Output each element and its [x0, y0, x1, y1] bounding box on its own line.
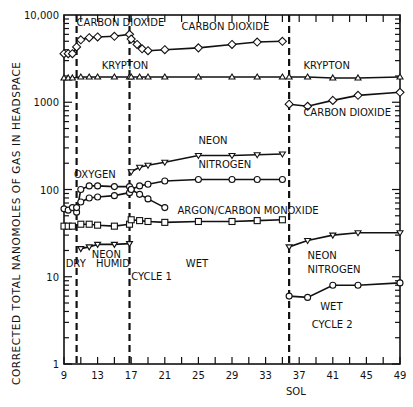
labels-layer: CARBON DIOXIDECARBON DIOXIDECARBON DIOXI…	[66, 17, 391, 330]
data-point	[94, 33, 102, 41]
data-point	[137, 183, 143, 189]
x-tick-label: 45	[360, 370, 373, 381]
data-point	[229, 154, 235, 159]
series-label: NEON	[198, 135, 227, 146]
phase-label: CYCLE 1	[131, 271, 172, 282]
data-point	[111, 184, 117, 190]
data-point	[128, 187, 134, 193]
data-point	[95, 194, 101, 200]
series-nitrogen	[74, 177, 403, 301]
data-point	[86, 195, 92, 201]
data-point	[330, 75, 336, 80]
data-point	[253, 38, 261, 46]
y-axis-label: CORRECTED TOTAL NANOMOLES OF GAS IN HEAD…	[10, 61, 22, 385]
data-point	[254, 153, 260, 158]
data-point	[78, 74, 84, 79]
data-point	[85, 34, 93, 42]
data-point	[77, 36, 85, 44]
data-point	[78, 187, 84, 193]
data-point	[354, 91, 362, 99]
data-point	[137, 74, 143, 79]
data-point	[137, 191, 143, 197]
data-point	[95, 74, 101, 79]
data-point	[78, 199, 84, 205]
y-tick-label: 1	[53, 359, 59, 370]
x-tick-label: 29	[226, 370, 239, 381]
x-tick-label: 25	[192, 370, 205, 381]
data-point	[95, 183, 101, 189]
data-point	[330, 282, 336, 288]
data-point	[111, 242, 117, 247]
data-point	[397, 280, 403, 286]
data-point	[229, 218, 235, 224]
data-point	[329, 96, 337, 104]
data-point	[285, 100, 293, 108]
y-tick-label: 10	[46, 272, 59, 283]
data-point	[111, 193, 117, 199]
data-point	[279, 177, 285, 183]
series-label: KRYPTON	[303, 60, 349, 71]
data-point	[69, 223, 75, 229]
data-point	[137, 165, 143, 170]
data-point	[145, 74, 151, 79]
data-point	[128, 217, 134, 223]
data-point	[162, 219, 168, 225]
series-argon-carbon-monoxide	[61, 217, 285, 229]
phase-label: WET	[320, 301, 343, 312]
data-point	[195, 177, 201, 183]
data-point	[78, 247, 84, 252]
data-point	[330, 233, 336, 238]
data-point	[194, 44, 202, 52]
series-label: CARBON DIOXIDE	[303, 107, 391, 118]
data-point	[127, 242, 133, 247]
data-point	[145, 181, 151, 187]
phase-label: DRY	[66, 258, 87, 269]
data-point	[355, 282, 361, 288]
y-tick-label: 100	[40, 185, 59, 196]
data-point	[137, 218, 143, 224]
data-point	[229, 74, 235, 79]
series-label: ARGON/CARBON MONOXIDE	[177, 205, 318, 216]
phase-label: CYCLE 2	[312, 319, 353, 330]
data-point	[73, 43, 81, 51]
data-point	[279, 152, 285, 157]
series-label: OXYGEN	[74, 169, 116, 180]
x-tick-label: 21	[158, 370, 171, 381]
data-point	[355, 75, 361, 80]
data-point	[95, 222, 101, 228]
series-krypton	[61, 74, 403, 80]
series-label: NITROGEN	[308, 264, 361, 275]
x-tick-label: 41	[326, 370, 339, 381]
data-point	[396, 88, 404, 96]
x-tick-label: 9	[61, 370, 67, 381]
data-point	[279, 217, 285, 223]
data-point	[69, 75, 75, 80]
data-point	[397, 74, 403, 79]
data-point	[145, 196, 151, 202]
series-label: KRYPTON	[102, 60, 148, 71]
data-point	[145, 163, 151, 168]
data-point	[78, 221, 84, 227]
data-point	[254, 177, 260, 183]
data-point	[305, 239, 311, 244]
data-point	[86, 183, 92, 189]
data-point	[86, 74, 92, 79]
data-point	[111, 74, 117, 79]
data-point	[195, 218, 201, 224]
data-point	[305, 294, 311, 300]
x-tick-label: 49	[394, 370, 407, 381]
data-point	[355, 231, 361, 236]
data-point	[305, 74, 311, 79]
data-point	[286, 245, 292, 250]
data-point	[228, 40, 236, 48]
x-tick-label: 37	[293, 370, 306, 381]
data-point	[279, 74, 285, 79]
x-tick-label: 13	[91, 370, 104, 381]
data-point	[111, 223, 117, 229]
phase-label: HUMID	[96, 258, 130, 269]
data-point	[95, 242, 101, 247]
series-label: NEON	[308, 250, 337, 261]
series-label: CARBON DIOXIDE	[182, 21, 270, 32]
data-point	[229, 177, 235, 183]
phase-label: WET	[186, 258, 209, 269]
